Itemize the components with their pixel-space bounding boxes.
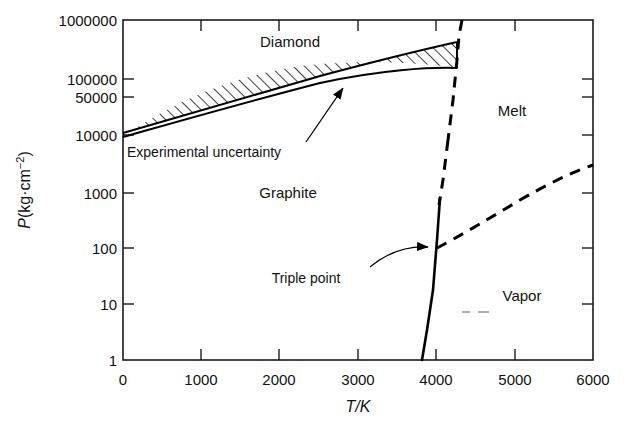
y-axis-title-exponent: −2 [14,157,26,170]
experimental-uncertainty-band [123,42,457,137]
x-axis-title: T/K [346,398,372,415]
triple-point-leader-arrow [370,247,428,267]
y-tick-label-100000: 100000 [67,71,117,88]
y-axis-title-close: ) [16,151,33,156]
sublimation-line-solid [422,198,440,360]
x-tick-label-6000: 6000 [576,371,609,388]
y-tick-label-1000: 1000 [84,185,117,202]
y-axis-ticks-left [123,79,134,304]
region-label-diamond: Diamond [260,33,320,50]
svg-text:P(kg·cm−2): P(kg·cm−2) [14,151,33,228]
y-axis-title: P(kg·cm−2) [14,151,33,228]
graphite-melt-boundary-dashed [439,140,448,205]
y-axis-title-unit: kg·cm [16,169,33,213]
y-tick-label-50000: 50000 [75,89,117,106]
phase-diagram-svg: 1000000 100000 50000 10000 1000 100 10 1… [0,0,627,434]
y-tick-label-1: 1 [109,352,117,369]
x-axis-ticks-top [201,20,515,31]
y-tick-label-10000: 10000 [75,127,117,144]
experimental-uncertainty-label: Experimental uncertainty [127,144,281,160]
x-tick-label-1000: 1000 [184,371,217,388]
y-axis-title-symbol: P [16,218,33,229]
x-tick-label-4000: 4000 [419,371,452,388]
y-tick-label-1000000: 1000000 [59,12,117,29]
annotation-triple-point: Triple point [272,247,428,286]
experimental-uncertainty-leader-line [306,88,343,142]
y-tick-label-10: 10 [100,296,117,313]
y-axis-ticks-right [582,79,593,304]
triple-point-label: Triple point [272,270,341,286]
phase-diagram-figure: 1000000 100000 50000 10000 1000 100 10 1… [0,0,627,434]
region-label-melt: Melt [498,102,527,119]
x-tick-label-5000: 5000 [498,371,531,388]
plot-frame [123,20,593,360]
x-axis-ticks-bottom [201,349,515,360]
y-tick-label-100: 100 [92,240,117,257]
diamond-melt-boundary-dashed [448,20,462,140]
x-tick-label-2000: 2000 [262,371,295,388]
x-tick-label-3000: 3000 [341,371,374,388]
melt-vapor-boundary-dashed [437,165,593,248]
region-label-vapor: Vapor [503,287,542,304]
region-label-graphite: Graphite [259,184,317,201]
x-tick-label-0: 0 [119,371,127,388]
